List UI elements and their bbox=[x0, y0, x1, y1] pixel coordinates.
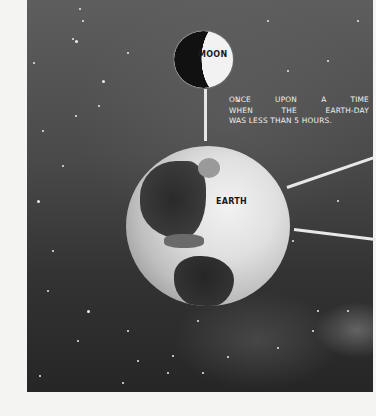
star-dot bbox=[357, 20, 359, 22]
star-dot bbox=[39, 375, 41, 377]
star-dot bbox=[172, 355, 174, 357]
caption-line: WHEN THE EARTH-DAY bbox=[229, 106, 369, 117]
star-dot bbox=[42, 130, 44, 132]
star-dot bbox=[312, 330, 314, 332]
star-dot bbox=[98, 105, 100, 107]
earth-label: EARTH bbox=[216, 197, 247, 206]
star-dot bbox=[52, 250, 54, 252]
star-dot bbox=[87, 310, 90, 313]
star-dot bbox=[37, 200, 40, 203]
star-dot bbox=[137, 360, 139, 362]
star-dot bbox=[47, 290, 49, 292]
star-dot bbox=[227, 356, 229, 358]
earth-illustration bbox=[126, 146, 290, 306]
star-dot bbox=[127, 330, 129, 332]
star-dot bbox=[33, 62, 35, 64]
star-dot bbox=[102, 80, 105, 83]
caption-line: WAS LESS THAN 5 HOURS. bbox=[229, 116, 369, 127]
south-america-shape bbox=[174, 256, 234, 306]
star-dot bbox=[347, 310, 349, 312]
star-dot bbox=[79, 8, 81, 10]
star-dot bbox=[62, 165, 64, 167]
star-dot bbox=[82, 20, 84, 22]
central-america-shape bbox=[164, 234, 204, 248]
caption-line: ONCE UPON A TIME bbox=[229, 95, 369, 106]
star-dot bbox=[72, 38, 74, 40]
moon-earth-connector-line bbox=[204, 89, 207, 141]
star-dot bbox=[77, 340, 79, 342]
moon-shadow bbox=[174, 31, 233, 88]
star-dot bbox=[317, 310, 319, 312]
star-dot bbox=[337, 200, 339, 202]
moon-illustration bbox=[174, 31, 233, 88]
star-dot bbox=[122, 382, 124, 384]
star-dot bbox=[277, 347, 279, 349]
star-dot bbox=[327, 60, 329, 62]
caption-text: ONCE UPON A TIME WHEN THE EARTH-DAY WAS … bbox=[229, 95, 369, 127]
star-dot bbox=[167, 372, 169, 374]
star-dot bbox=[127, 52, 129, 54]
star-dot bbox=[75, 40, 78, 43]
star-dot bbox=[197, 320, 199, 322]
star-dot bbox=[75, 115, 77, 117]
star-dot bbox=[292, 240, 294, 242]
north-america-shape bbox=[140, 161, 206, 239]
moon-label: MOON bbox=[198, 50, 227, 59]
greenland-shape bbox=[198, 158, 220, 178]
star-dot bbox=[267, 20, 269, 22]
star-dot bbox=[202, 372, 204, 374]
star-dot bbox=[287, 70, 289, 72]
